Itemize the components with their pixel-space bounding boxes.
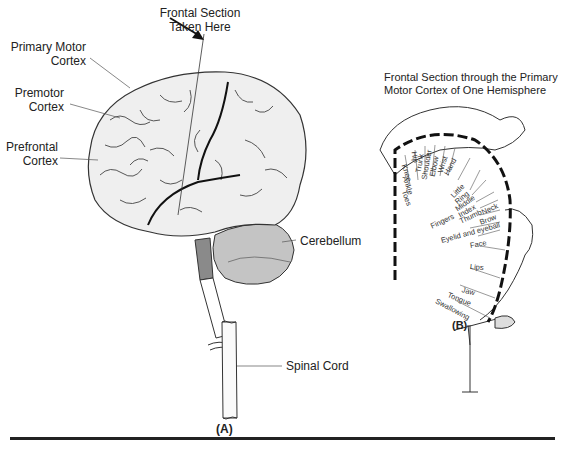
homunculus-label-lips: Lips bbox=[470, 262, 484, 272]
prefrontal-line2: Cortex bbox=[0, 154, 58, 168]
cerebellum-label: Cerebellum bbox=[300, 234, 361, 248]
prefrontal-cortex-label: Prefrontal Cortex bbox=[0, 140, 58, 168]
primary-motor-line2: Cortex bbox=[0, 54, 86, 68]
panel-b-title-line1: Frontal Section through the Primary bbox=[384, 71, 558, 84]
cerebrum-shape bbox=[88, 72, 306, 236]
premotor-line1: Premotor bbox=[0, 86, 64, 100]
brainstem-shape bbox=[195, 238, 213, 280]
panel-b-title: Frontal Section through the Primary Moto… bbox=[384, 71, 558, 97]
primary-motor-cortex-label: Primary Motor Cortex bbox=[0, 40, 86, 68]
cerebellum-shape bbox=[213, 224, 294, 285]
frontal-section-label: Frontal Section Taken Here bbox=[140, 6, 260, 34]
frontal-section-line1: Frontal Section bbox=[140, 6, 260, 20]
spinal-cord-shape bbox=[222, 322, 237, 418]
premotor-line2: Cortex bbox=[0, 100, 64, 114]
frontal-section-line2: Taken Here bbox=[140, 20, 260, 34]
premotor-cortex-label: Premotor Cortex bbox=[0, 86, 64, 114]
panel-a-label: (A) bbox=[216, 422, 233, 436]
primary-motor-line1: Primary Motor bbox=[0, 40, 86, 54]
prefrontal-line1: Prefrontal bbox=[0, 140, 58, 154]
panel-b-title-line2: Motor Cortex of One Hemisphere bbox=[384, 84, 558, 97]
spinal-cord-label: Spinal Cord bbox=[286, 359, 349, 373]
